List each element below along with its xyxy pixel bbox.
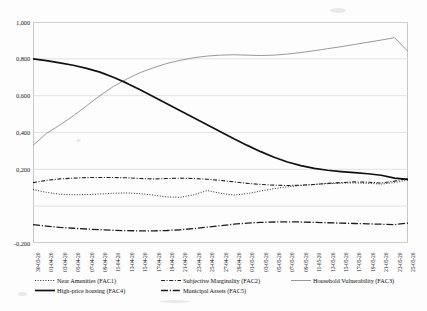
legend-line-swatch	[161, 277, 181, 284]
x-axis-tick-label: 30-03-20	[35, 253, 41, 272]
x-axis-tick-label: 05-04-20	[75, 253, 81, 272]
legend-row: High-price housing (FAC4)Municipal Asset…	[33, 286, 413, 296]
legend-item[interactable]: High-price housing (FAC4)	[35, 286, 125, 295]
chart-legend: Near Amenities (FAC1)Subjective Marginal…	[33, 276, 413, 296]
series-line-fac2	[33, 177, 408, 185]
x-axis-tick-label: 23-05-20	[397, 253, 403, 272]
x-axis-tick-label: 07-05-20	[289, 253, 295, 272]
y-axis-tick-label: 0,800	[0, 55, 30, 62]
legend-row: Near Amenities (FAC1)Subjective Marginal…	[33, 276, 413, 286]
x-axis-tick-label: 03-05-20	[263, 253, 269, 272]
x-axis-tick-label: 05-05-20	[276, 253, 282, 272]
x-axis-tick-label: 13-04-20	[129, 253, 135, 272]
legend-item[interactable]: Subjective Marginality (FAC2)	[161, 276, 260, 285]
x-axis-tick-label: 25-05-20	[410, 253, 416, 272]
x-axis-tick-label: 01-05-20	[249, 253, 255, 272]
x-axis-tick-label: 09-04-20	[102, 253, 108, 272]
y-axis-tick-label: 1,000	[0, 19, 30, 26]
x-axis-tick-label: 19-04-20	[169, 253, 175, 272]
scan-artifact	[160, 300, 190, 303]
x-axis-tick-label: 09-05-20	[303, 253, 309, 272]
legend-label: Household Vulnerability (FAC3)	[313, 276, 394, 285]
legend-label: Near Amenities (FAC1)	[57, 276, 116, 285]
chart-canvas	[33, 22, 408, 243]
legend-label: Municipal Assets (FAC5)	[183, 286, 246, 295]
legend-item[interactable]: Household Vulnerability (FAC3)	[291, 276, 394, 285]
scan-artifact	[18, 292, 27, 296]
y-axis-tick-label: 0,600	[0, 92, 30, 99]
x-axis-tick-label: 15-04-20	[142, 253, 148, 272]
x-axis-tick-label: 13-05-20	[330, 253, 336, 272]
x-axis-tick-label: 21-04-20	[182, 253, 188, 272]
chart-figure: 1,0000,8000,6000,4000,200-0,200 30-03-20…	[0, 0, 427, 311]
x-axis-tick-label: 17-05-20	[356, 253, 362, 272]
x-axis-tick-label: 27-04-20	[223, 253, 229, 272]
y-axis-tick-label: -0,200	[0, 240, 30, 247]
x-axis-tick-label: 15-05-20	[343, 253, 349, 272]
x-axis-tick-label: 29-04-20	[236, 253, 242, 272]
scan-artifact	[330, 8, 346, 13]
x-axis-tick-label: 19-05-20	[370, 253, 376, 272]
x-axis: 30-03-2001-04-2003-04-2005-04-2007-04-20…	[33, 243, 408, 273]
x-axis-tick-label: 07-04-20	[89, 253, 95, 272]
x-axis-tick-label: 11-04-20	[115, 253, 121, 272]
x-axis-tick-label: 11-05-20	[316, 253, 322, 272]
x-axis-tick-label: 17-04-20	[156, 253, 162, 272]
series-line-fac4	[33, 59, 408, 179]
x-axis-tick-label: 25-04-20	[209, 253, 215, 272]
y-axis-tick-label: 0,400	[0, 129, 30, 136]
y-axis-tick-label: 0,200	[0, 166, 30, 173]
series-line-fac3	[33, 38, 408, 146]
x-axis-tick-label: 03-04-20	[62, 253, 68, 272]
series-line-fac1	[33, 180, 408, 197]
series-line-fac5	[33, 222, 408, 231]
legend-line-swatch	[161, 287, 181, 294]
legend-label: High-price housing (FAC4)	[57, 286, 125, 295]
series-lines	[33, 38, 408, 231]
legend-item[interactable]: Near Amenities (FAC1)	[35, 276, 116, 285]
x-axis-tick-label: 21-05-20	[383, 253, 389, 272]
legend-line-swatch	[35, 277, 55, 284]
legend-line-swatch	[35, 287, 55, 294]
x-axis-tick-label: 23-04-20	[196, 253, 202, 272]
legend-item[interactable]: Municipal Assets (FAC5)	[161, 286, 246, 295]
legend-line-swatch	[291, 277, 311, 284]
legend-label: Subjective Marginality (FAC2)	[183, 276, 260, 285]
x-axis-tick-label: 01-04-20	[48, 253, 54, 272]
